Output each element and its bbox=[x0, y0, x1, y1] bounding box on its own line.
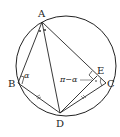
segment-AD bbox=[42, 22, 60, 113]
label-pi-minus-alpha: π−α bbox=[59, 75, 78, 84]
label-alpha: α bbox=[24, 71, 30, 80]
label-C: C bbox=[107, 78, 115, 89]
right-angle-mark-E bbox=[89, 71, 93, 79]
label-A: A bbox=[37, 8, 46, 19]
angle-dot-A-left bbox=[39, 30, 41, 32]
label-E: E bbox=[97, 65, 104, 76]
angle-dot-E bbox=[95, 80, 97, 82]
angle-dot-A-right bbox=[44, 29, 46, 31]
label-D: D bbox=[56, 118, 64, 129]
geometry-diagram: A B C D E α π−α bbox=[0, 0, 120, 137]
label-B: B bbox=[8, 78, 15, 89]
